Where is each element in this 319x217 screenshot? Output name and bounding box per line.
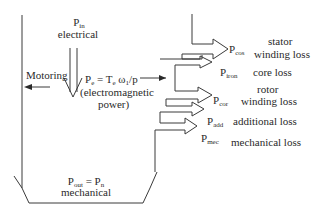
loss-cor-symbol: Pcor [213, 95, 228, 110]
arrow-iron [160, 56, 212, 91]
arrow-mec [155, 118, 197, 172]
loss-cor-label-2: winding loss [241, 96, 297, 107]
loss-cos-label-1: stator [268, 36, 292, 47]
motoring-label: Motoring [26, 70, 68, 81]
arrow-add [160, 102, 204, 123]
electromagnetic-description-2: power) [98, 99, 129, 110]
power-flow-lines [0, 0, 319, 217]
input-description: electrical [52, 29, 104, 40]
arrow-cos [182, 39, 228, 59]
loss-mec-label: mechanical loss [231, 137, 301, 148]
bottom-flare-left [14, 176, 22, 188]
loss-cos-label-2: winding loss [254, 49, 310, 60]
right-boundary-line [192, 14, 213, 44]
bottom-flare-right [150, 172, 157, 188]
electromagnetic-description-1: (electromagnetic [80, 87, 154, 98]
loss-add-symbol: Padd [207, 116, 223, 131]
pe-arrowhead [159, 75, 166, 81]
loss-iron-label: core loss [253, 67, 292, 78]
motoring-arrowhead [24, 84, 32, 90]
arrow-cor [166, 87, 212, 106]
loss-cor-label-1: rotor [257, 84, 278, 95]
loss-mec-symbol: Pmec [201, 133, 219, 148]
loss-cos-symbol: Pcos [229, 44, 244, 59]
loss-iron-symbol: Piron [220, 67, 237, 82]
output-description: mechanical [50, 187, 122, 198]
loss-add-label: additional loss [233, 116, 297, 127]
